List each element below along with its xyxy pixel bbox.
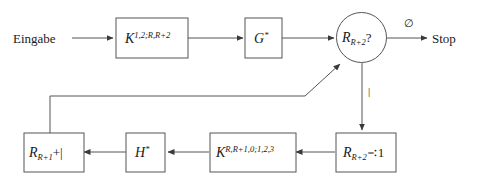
label-input: Eingabe (13, 31, 56, 46)
label-k-second-base: K (215, 145, 226, 160)
label-k-first-base: K (124, 31, 135, 46)
label-stop: Stop (432, 31, 456, 46)
label-r-plus-bar-base: R (28, 145, 38, 160)
label-k-first-superscript: 1,2;R,R+2 (134, 30, 171, 40)
label-k-second-superscript: R,R+1,0;1,2,3 (224, 144, 274, 154)
label-edge-bar: | (368, 85, 370, 97)
label-decision-suffix: ? (366, 30, 372, 45)
flowchart-diagram: Eingabe K1,2;R,R+2 G* RR+2? Stop ∅ | RR+… (0, 0, 484, 181)
label-decision-subscript: R+2 (350, 37, 367, 47)
label-decision-base: R (341, 30, 351, 45)
edge-feedback-loop (50, 64, 340, 133)
label-r-plus-bar-subscript: R+1 (37, 152, 53, 162)
flowchart-canvas: Eingabe K1,2;R,R+2 G* RR+2? Stop ∅ | RR+… (0, 0, 484, 181)
label-r-monus-suffix: ∹1 (367, 145, 384, 160)
label-r-monus-subscript: R+2 (351, 152, 368, 162)
label-r-monus-base: R (342, 145, 352, 160)
label-g-star-base: G (254, 31, 264, 46)
label-edge-empty-set: ∅ (404, 17, 414, 29)
label-r-plus-bar-suffix: +| (53, 145, 63, 160)
